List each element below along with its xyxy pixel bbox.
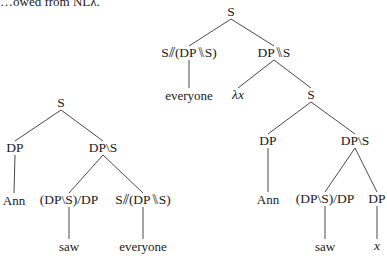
tree-edge xyxy=(274,60,311,88)
tree-edge xyxy=(69,155,103,193)
category-node-r-s: S xyxy=(227,5,235,19)
tree-edges xyxy=(0,0,387,258)
leaf-word-r-ann: Ann xyxy=(257,193,279,206)
category-node-r-dp2: DP xyxy=(368,192,385,206)
tree-edge xyxy=(325,148,355,192)
category-node-r-x: x xyxy=(374,239,380,253)
tree-edge xyxy=(231,19,274,46)
category-node-l-tv: (DP\S)/DP xyxy=(40,193,99,207)
category-node-l-dp: DP xyxy=(6,141,23,155)
tree-edge xyxy=(189,19,231,46)
tree-edge xyxy=(15,110,61,141)
derivation-diagram: SDPDP\SAnn(DP\S)/DPS⫽(DP⑊S)saweveryoneSS… xyxy=(0,0,387,258)
leaf-word-l-everyone: everyone xyxy=(119,240,167,253)
category-node-l-q: S⫽(DP⑊S) xyxy=(115,193,170,207)
tree-edge xyxy=(103,155,143,193)
tree-edge xyxy=(61,110,103,141)
category-node-r-q: S⫽(DP⑊S) xyxy=(161,46,216,60)
leaf-word-l-ann: Ann xyxy=(3,194,25,207)
category-node-r-s2: S xyxy=(307,88,315,102)
tree-edge xyxy=(268,102,311,134)
tree-edge xyxy=(355,148,377,192)
tree-edge xyxy=(311,102,355,134)
leaf-word-r-saw: saw xyxy=(315,240,335,253)
category-node-r-lambda: λx xyxy=(232,88,244,102)
category-node-r-dp: DP xyxy=(259,134,276,148)
category-node-l-s: S xyxy=(57,96,65,110)
leaf-word-r-everyone: everyone xyxy=(165,89,213,102)
category-node-r-dpds: DP⑊S xyxy=(258,46,291,60)
leaf-word-l-saw: saw xyxy=(59,240,79,253)
category-node-r-tv: (DP\S)/DP xyxy=(296,192,355,206)
category-node-l-dps: DP\S xyxy=(89,141,118,155)
tree-edge xyxy=(238,60,274,88)
tree-edge xyxy=(14,155,15,193)
category-node-r-dps: DP\S xyxy=(341,134,370,148)
